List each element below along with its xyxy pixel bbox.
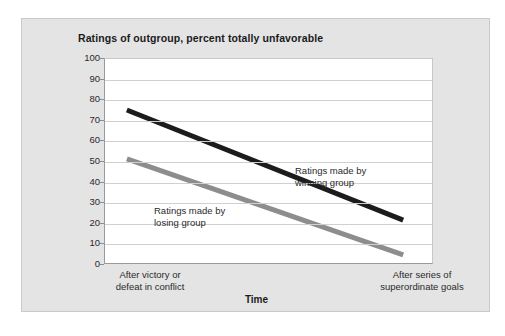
annotation-losing-line1: Ratings made by: [154, 205, 225, 217]
gridline: [105, 100, 432, 101]
x-axis-title: Time: [22, 294, 491, 305]
annotation-winning-group: Ratings made by winning group: [295, 165, 366, 190]
y-tick-label: 100: [74, 53, 100, 63]
y-axis: 1009080706050403020100: [70, 58, 100, 264]
y-tick-label: 20: [74, 218, 100, 228]
x-tick-right-line2: superordinate goals: [352, 281, 492, 293]
y-tick-label: 60: [74, 136, 100, 146]
gridline: [105, 162, 432, 163]
y-tick-label: 30: [74, 197, 100, 207]
annotation-winning-line1: Ratings made by: [295, 165, 366, 177]
gridline: [105, 141, 432, 142]
gridline: [105, 244, 432, 245]
x-tick-label-left: After victory or defeat in conflict: [88, 269, 212, 293]
gridline: [105, 121, 432, 122]
annotation-losing-line2: losing group: [154, 217, 225, 229]
y-tick-label: 80: [74, 94, 100, 104]
x-tick-right-line1: After series of: [352, 269, 492, 281]
series-lines: [105, 59, 432, 263]
x-tick-label-right: After series of superordinate goals: [352, 269, 492, 293]
y-tick-label: 70: [74, 115, 100, 125]
x-tick-left-line1: After victory or: [88, 269, 212, 281]
y-tick-label: 0: [74, 259, 100, 269]
y-tick-label: 40: [74, 177, 100, 187]
gridline: [105, 183, 432, 184]
y-tick-label: 10: [74, 239, 100, 249]
chart-title: Ratings of outgroup, percent totally unf…: [78, 32, 323, 44]
y-tick-label: 50: [74, 156, 100, 166]
annotation-winning-line2: winning group: [295, 177, 366, 189]
x-tick-left-line2: defeat in conflict: [88, 281, 212, 293]
plot-area: [104, 58, 433, 264]
chart-figure-card: Ratings of outgroup, percent totally unf…: [21, 18, 490, 312]
gridline: [105, 80, 432, 81]
annotation-losing-group: Ratings made by losing group: [154, 205, 225, 230]
y-tick-label: 90: [74, 74, 100, 84]
y-tick-mark: [100, 264, 104, 265]
